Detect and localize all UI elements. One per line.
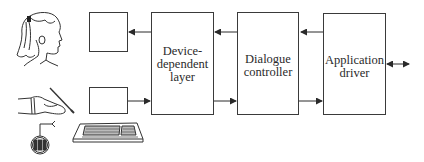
dialogue-controller-label: Dialogue controller: [238, 53, 298, 79]
input-device-box: [89, 87, 128, 114]
keyboard-icon: [73, 123, 143, 142]
dialogue-controller-box: Dialogue controller: [237, 12, 299, 115]
hand-with-pen-icon: [18, 88, 74, 114]
person-head-icon: [17, 12, 62, 66]
device-dependent-layer-box: Device- dependent layer: [151, 12, 214, 115]
label-line: driver: [324, 67, 385, 80]
label-line: layer: [152, 71, 213, 84]
device-dependent-layer-label: Device- dependent layer: [152, 45, 213, 84]
joystick-controller-icon: [31, 121, 55, 154]
output-device-box: [89, 12, 128, 52]
application-driver-label: Application driver: [324, 54, 385, 80]
label-line: controller: [238, 66, 298, 79]
application-driver-box: Application driver: [323, 13, 386, 115]
